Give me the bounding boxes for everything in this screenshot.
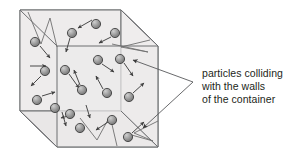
particle [30,37,39,46]
caption-text: particles colliding with the walls of th… [202,67,302,107]
particle [67,28,76,37]
particle [102,88,111,97]
particle [107,115,116,124]
particle [75,123,84,132]
caption-line-3: of the container [202,93,302,106]
particle [77,85,86,94]
particle [50,103,59,112]
particle [32,95,41,104]
particle [40,66,49,75]
caption-line-1: particles colliding [202,67,302,80]
particle [65,109,74,118]
caption-line-2: with the walls [202,80,302,93]
particle [60,65,69,74]
particle [93,55,102,64]
particle [91,19,100,28]
particle [115,54,124,63]
particle [124,92,133,101]
particle [123,132,132,141]
figure-root: particles colliding with the walls of th… [0,0,305,159]
cube-container [20,10,158,147]
particle [110,28,119,37]
